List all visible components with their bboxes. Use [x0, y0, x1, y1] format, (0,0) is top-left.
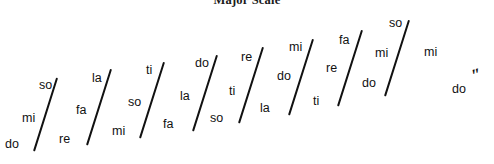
solfege-syllable: la: [92, 72, 102, 85]
solfege-syllable: re: [326, 62, 337, 75]
solfege-syllable: re: [59, 133, 70, 146]
solfege-syllable: do: [277, 70, 291, 83]
solfege-syllable: do: [195, 57, 209, 70]
figure-title: Major Scale: [0, 0, 494, 8]
solfege-syllable: ti: [146, 64, 152, 77]
solfege-syllable: so: [389, 17, 402, 30]
solfege-syllable: so: [210, 112, 223, 125]
solfege-syllable: do: [5, 138, 19, 151]
solfege-syllable: re: [241, 51, 252, 64]
solfege-syllable: mi: [112, 125, 125, 138]
solfege-syllable: ti: [229, 85, 235, 98]
solfege-syllable: so: [128, 96, 141, 109]
octave-double-prime-mark: ″: [470, 65, 484, 84]
solfege-syllable: do: [362, 77, 376, 90]
solfege-syllable: ti: [313, 95, 319, 108]
solfege-syllable: fa: [163, 118, 173, 131]
solfege-syllable: mi: [22, 112, 35, 125]
solfege-syllable: fa: [339, 34, 349, 47]
solfege-syllable: do: [452, 83, 466, 96]
solfege-syllable: la: [180, 90, 190, 103]
major-scale-diagram: Major Scale domisorefalamisotifaladosoti…: [0, 0, 494, 164]
solfege-syllable: so: [39, 79, 52, 92]
solfege-syllable: mi: [289, 41, 302, 54]
solfege-syllable: mi: [424, 46, 437, 59]
solfege-syllable: la: [260, 102, 270, 115]
solfege-syllable: fa: [76, 104, 86, 117]
solfege-syllable: mi: [375, 47, 388, 60]
